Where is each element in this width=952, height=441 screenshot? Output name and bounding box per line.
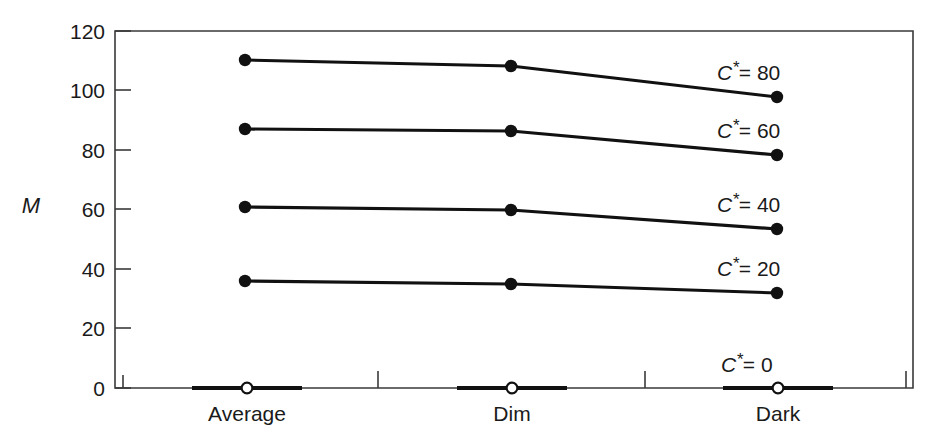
x-axis-category-labels: Average Dim Dark	[208, 402, 801, 425]
data-point-c0-dim	[507, 383, 518, 394]
y-tick-label-60: 60	[82, 198, 105, 221]
series-label-c-80-var: C	[717, 61, 733, 84]
data-point-c20-dim	[505, 278, 517, 290]
series-label-c-20-rest: = 20	[739, 257, 780, 280]
series-c-80: C*= 80	[239, 54, 783, 103]
x-category-label-average: Average	[208, 402, 286, 425]
data-point-c40-average	[239, 201, 251, 213]
x-category-label-dark: Dark	[756, 402, 801, 425]
chart-figure: 120 100 80 60 40 20 0 M Average Dim Dark	[0, 0, 952, 441]
series-label-c-20-var: C	[717, 257, 733, 280]
data-point-c60-dim	[505, 125, 517, 137]
data-point-c40-dark	[771, 223, 783, 235]
series-label-c-60-rest: = 60	[739, 119, 780, 142]
data-point-c40-dim	[505, 204, 517, 216]
series-label-c-20: C*= 20	[717, 254, 780, 280]
series-c-40: C*= 40	[239, 190, 783, 235]
series-label-c-0-var: C	[721, 353, 737, 376]
data-point-c60-average	[239, 123, 251, 135]
series-label-c-80: C*= 80	[717, 58, 780, 84]
data-point-c80-dark	[771, 91, 783, 103]
series-label-c-40: C*= 40	[717, 190, 780, 216]
series-label-c-40-rest: = 40	[739, 193, 780, 216]
series-label-c-40-var: C	[717, 193, 733, 216]
y-tick-label-120: 120	[70, 20, 105, 43]
y-axis-label: M	[22, 193, 41, 218]
data-point-c80-dim	[505, 60, 517, 72]
x-category-label-dim: Dim	[493, 402, 530, 425]
x-axis-ticks	[378, 371, 906, 388]
y-tick-label-0: 0	[93, 377, 105, 400]
series-label-c-60-var: C	[717, 119, 733, 142]
data-point-c80-average	[239, 54, 251, 66]
series-label-c-0-rest: = 0	[743, 353, 773, 376]
series-label-c-60: C*= 60	[717, 116, 780, 142]
y-tick-label-20: 20	[82, 317, 105, 340]
data-point-c0-average	[242, 383, 253, 394]
y-axis-ticks	[115, 31, 131, 388]
y-axis-tick-labels: 120 100 80 60 40 20 0	[70, 20, 105, 400]
data-point-c20-average	[239, 275, 251, 287]
y-tick-label-40: 40	[82, 258, 105, 281]
series-label-c-0: C*= 0	[721, 350, 773, 376]
line-chart-canvas: 120 100 80 60 40 20 0 M Average Dim Dark	[0, 0, 952, 441]
y-tick-label-100: 100	[70, 79, 105, 102]
series-label-c-80-rest: = 80	[739, 61, 780, 84]
series-c-0: C*= 0	[192, 350, 833, 393]
series-c-20: C*= 20	[239, 254, 783, 299]
data-point-c60-dark	[771, 149, 783, 161]
series-c-60: C*= 60	[239, 116, 783, 161]
y-tick-label-80: 80	[82, 139, 105, 162]
data-point-c0-dark	[773, 383, 784, 394]
data-point-c20-dark	[771, 287, 783, 299]
